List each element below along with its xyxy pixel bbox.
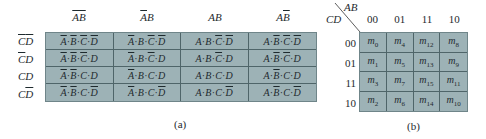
- column-header: AB: [45, 11, 113, 23]
- literal-d: D: [226, 53, 233, 64]
- literal-c-complement: C: [148, 53, 155, 64]
- column-code: 11: [414, 13, 441, 25]
- column-header: AB: [181, 11, 249, 23]
- column-header: AB: [113, 11, 181, 23]
- literal-a-complement: A: [140, 11, 147, 23]
- literal-d-complement: D: [226, 36, 233, 47]
- literal-d-complement: D: [91, 87, 98, 98]
- literal-d: D: [294, 53, 301, 64]
- literal-b-complement: B: [79, 11, 86, 23]
- row-code: 01: [332, 57, 356, 69]
- minterm-cell: m3: [360, 72, 387, 92]
- minterm-grid: m0m4m12m8m1m5m13m9m3m7m15m11m2m6m14m10: [359, 32, 468, 112]
- expression-cell: A · B · C · D: [249, 50, 317, 67]
- minterm-cell: m4: [387, 33, 414, 53]
- column-code: 10: [441, 13, 468, 25]
- expression-cell: A · B · C · D: [46, 67, 114, 84]
- literal-d: D: [158, 53, 165, 64]
- row-header: CD: [18, 88, 44, 100]
- minterm-cell: m13: [414, 53, 441, 73]
- literal-a: A: [276, 11, 283, 23]
- literal-c-complement: C: [80, 53, 87, 64]
- literal-c: C: [283, 87, 290, 98]
- minterm-cell: m11: [440, 72, 467, 92]
- column-header: AB: [249, 11, 317, 23]
- literal-c-complement: C: [80, 36, 87, 47]
- column-code: 01: [386, 13, 413, 25]
- literal-d-complement: D: [294, 36, 301, 47]
- literal-a-complement: A: [72, 11, 79, 23]
- minterm-cell: m0: [360, 33, 387, 53]
- literal-a: A: [208, 11, 215, 23]
- expression-cell: A · B · C · D: [46, 33, 114, 50]
- expression-cell: A · B · C · D: [249, 67, 317, 84]
- expression-cell: A · B · C · D: [114, 84, 182, 101]
- minterm-cell: m12: [414, 33, 441, 53]
- literal-c: C: [283, 70, 290, 81]
- literal-d: D: [25, 53, 33, 65]
- minterm-cell: m14: [414, 92, 441, 112]
- literal-d-complement: D: [158, 36, 165, 47]
- expression-cell: A · B · C · D: [114, 50, 182, 67]
- literal-c: C: [148, 70, 155, 81]
- literal-d: D: [294, 70, 301, 81]
- expression-cell: A · B · C · D: [181, 33, 249, 50]
- literal-d: D: [158, 70, 165, 81]
- literal-c: C: [215, 70, 222, 81]
- row-code: 00: [332, 37, 356, 49]
- minterm-cell: m2: [360, 92, 387, 112]
- literal-b: B: [147, 11, 154, 23]
- literal-d-complement: D: [25, 88, 33, 100]
- literal-d-complement: D: [226, 87, 233, 98]
- literal-d-complement: D: [25, 35, 33, 47]
- literal-c-complement: C: [215, 53, 222, 64]
- corner-label-ab: AB: [344, 1, 357, 13]
- row-header: CD: [18, 53, 44, 65]
- literal-c: C: [80, 87, 87, 98]
- literal-d: D: [91, 53, 98, 64]
- expression-cell: A · B · C · D: [249, 33, 317, 50]
- literal-c-complement: C: [283, 36, 290, 47]
- minterm-cell: m7: [387, 72, 414, 92]
- row-header: CD: [18, 35, 44, 47]
- literal-b-complement: B: [283, 11, 290, 23]
- minterm-cell: m8: [440, 33, 467, 53]
- minterm-cell: m1: [360, 53, 387, 73]
- literal-c-complement: C: [283, 53, 290, 64]
- expression-cell: A · B · C · D: [114, 33, 182, 50]
- expression-cell: A · B · C · D: [114, 67, 182, 84]
- expression-cell: A · B · C · D: [46, 84, 114, 101]
- column-code: 00: [359, 13, 386, 25]
- corner-label-cd: CD: [326, 13, 341, 25]
- literal-d-complement: D: [294, 87, 301, 98]
- caption-a: (a): [174, 118, 186, 130]
- minterm-cell: m6: [387, 92, 414, 112]
- literal-c: C: [148, 87, 155, 98]
- literal-c: C: [80, 70, 87, 81]
- caption-b: (b): [407, 120, 420, 132]
- minterm-cell: m9: [440, 53, 467, 73]
- minterm-cell: m15: [414, 72, 441, 92]
- expression-cell: A · B · C · D: [181, 67, 249, 84]
- literal-d: D: [226, 70, 233, 81]
- literal-d: D: [91, 70, 98, 81]
- expression-grid: A · B · C · DA · B · C · DA · B · C · DA…: [45, 32, 317, 102]
- expression-cell: A · B · C · D: [249, 84, 317, 101]
- literal-d-complement: D: [91, 36, 98, 47]
- literal-c-complement: C: [215, 36, 222, 47]
- expression-cell: A · B · C · D: [181, 84, 249, 101]
- row-header: CD: [18, 70, 44, 82]
- literal-b: B: [215, 11, 222, 23]
- literal-c: C: [215, 87, 222, 98]
- minterm-cell: m10: [440, 92, 467, 112]
- literal-d: D: [25, 70, 33, 82]
- literal-d-complement: D: [158, 87, 165, 98]
- literal-c-complement: C: [148, 36, 155, 47]
- expression-cell: A · B · C · D: [46, 50, 114, 67]
- expression-cell: A · B · C · D: [181, 50, 249, 67]
- minterm-cell: m5: [387, 53, 414, 73]
- row-code: 10: [332, 97, 356, 109]
- row-code: 11: [332, 77, 356, 89]
